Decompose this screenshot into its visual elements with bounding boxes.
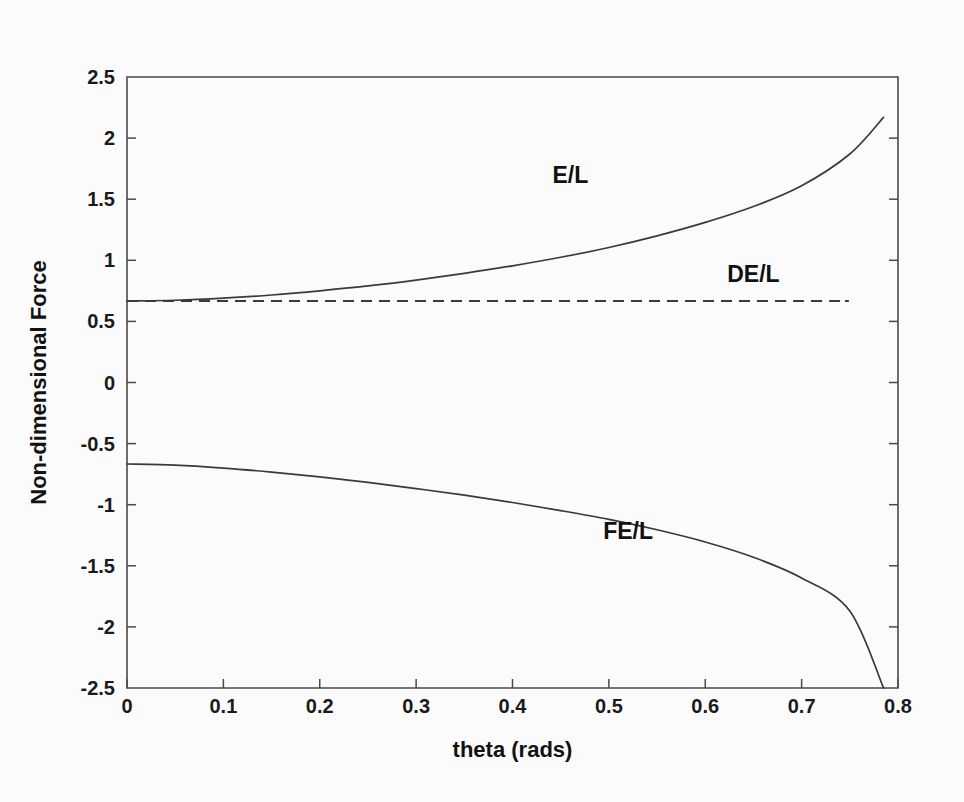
- y-axis-title: Non-dimensional Force: [26, 260, 51, 504]
- x-tick-label: 0.6: [691, 695, 719, 717]
- y-tick-label: 1.5: [87, 188, 115, 210]
- series-label-de-over-l: DE/L: [727, 261, 779, 287]
- y-tick-label: -2.5: [81, 677, 115, 699]
- y-tick-label: 0: [104, 372, 115, 394]
- figure-root: 00.10.20.30.40.50.60.70.8 -2.5-2-1.5-1-0…: [0, 0, 964, 802]
- curve-fe-over-l: [127, 464, 884, 688]
- x-axis-title: theta (rads): [453, 737, 573, 762]
- series-annotations: E/LDE/LFE/L: [552, 162, 779, 544]
- x-tick-label: 0.2: [306, 695, 334, 717]
- x-tick-label: 0.7: [788, 695, 816, 717]
- x-tick-label: 0.5: [595, 695, 623, 717]
- x-tick-label: 0.4: [499, 695, 528, 717]
- series-label-fe-over-l: FE/L: [603, 518, 653, 544]
- y-tick-label: 2: [104, 127, 115, 149]
- y-axis-ticks: [127, 138, 898, 627]
- plot-frame: [127, 77, 898, 688]
- y-tick-label: 1: [104, 249, 115, 271]
- y-tick-label: -1.5: [81, 555, 115, 577]
- series-label-e-over-l: E/L: [552, 162, 588, 188]
- y-axis-tick-labels: -2.5-2-1.5-1-0.500.511.522.5: [81, 66, 115, 699]
- y-tick-label: 2.5: [87, 66, 115, 88]
- x-tick-label: 0.3: [402, 695, 430, 717]
- x-axis-tick-labels: 00.10.20.30.40.50.60.70.8: [121, 695, 911, 717]
- y-tick-label: 0.5: [87, 310, 115, 332]
- data-series-group: [127, 117, 884, 688]
- y-tick-label: -0.5: [81, 433, 115, 455]
- chart-canvas: 00.10.20.30.40.50.60.70.8 -2.5-2-1.5-1-0…: [0, 0, 964, 802]
- y-tick-label: -1: [97, 494, 115, 516]
- x-tick-label: 0.1: [209, 695, 237, 717]
- x-axis-ticks: [127, 679, 898, 688]
- x-tick-label: 0: [121, 695, 132, 717]
- x-tick-label: 0.8: [884, 695, 912, 717]
- y-tick-label: -2: [97, 616, 115, 638]
